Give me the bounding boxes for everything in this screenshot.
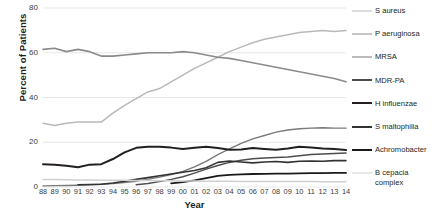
- legend-color-swatch: [352, 168, 372, 177]
- legend-item[interactable]: B cepacia complex: [352, 168, 440, 187]
- series-line: [43, 48, 346, 82]
- series-line: [43, 147, 346, 168]
- legend: S aureusP aeruginosaMRSAMDR-PAH influenz…: [352, 6, 440, 212]
- legend-color-swatch: [352, 52, 372, 61]
- series-canvas: [43, 8, 346, 187]
- y-axis-tick-label: 40: [16, 94, 38, 102]
- legend-color-swatch: [352, 99, 372, 108]
- y-axis-tick-label: 20: [16, 138, 38, 146]
- legend-color-swatch: [352, 76, 372, 85]
- legend-item-label: B cepacia complex: [375, 168, 408, 187]
- legend-item[interactable]: S maltophilia: [352, 122, 440, 132]
- y-axis-tick-label: 80: [16, 4, 38, 12]
- legend-item-label: H influenzae: [375, 99, 417, 109]
- legend-color-swatch: [352, 145, 372, 154]
- y-axis-tick-labels: 806040200: [12, 0, 38, 216]
- x-axis-title: Year: [43, 199, 346, 210]
- legend-item-label: MDR-PA: [375, 76, 404, 86]
- legend-color-swatch: [352, 29, 372, 38]
- legend-item[interactable]: P aeruginosa: [352, 29, 440, 39]
- legend-item-label: S maltophilia: [375, 122, 418, 132]
- line-chart: Percent of Patients 806040200 8889909192…: [0, 0, 440, 216]
- series-line: [43, 30, 346, 125]
- legend-item[interactable]: MRSA: [352, 52, 440, 62]
- legend-item[interactable]: MDR-PA: [352, 76, 440, 86]
- legend-item[interactable]: H influenzae: [352, 99, 440, 109]
- legend-item-label: Achromobacter: [375, 145, 427, 155]
- series-line: [43, 128, 346, 186]
- legend-item-label: P aeruginosa: [375, 29, 420, 39]
- y-axis-tick-label: 60: [16, 49, 38, 57]
- plot-area: [43, 8, 346, 187]
- legend-color-swatch: [352, 6, 372, 15]
- legend-item[interactable]: S aureus: [352, 6, 440, 16]
- legend-color-swatch: [352, 122, 372, 131]
- legend-item[interactable]: Achromobacter: [352, 145, 440, 155]
- legend-item-label: MRSA: [375, 52, 397, 62]
- legend-item-label: S aureus: [375, 6, 405, 16]
